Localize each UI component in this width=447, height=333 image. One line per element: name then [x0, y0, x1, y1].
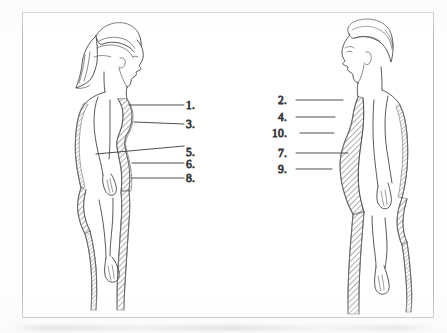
label-number: 10.: [272, 127, 287, 139]
label-callout-5: 5.: [96, 146, 195, 158]
label-number: 9.: [278, 163, 287, 175]
label-number: 4.: [278, 111, 287, 123]
label-number: 2.: [278, 94, 287, 106]
label-callout-4: 4.: [278, 111, 335, 123]
label-callout-2: 2.: [278, 94, 343, 106]
label-number: 5.: [186, 146, 195, 158]
label-number: 8.: [186, 172, 195, 184]
female-figure: [75, 23, 143, 310]
label-callout-7: 7.: [278, 147, 348, 159]
label-callout-10: 10.: [272, 127, 334, 139]
label-callout-8: 8.: [131, 172, 195, 184]
label-layer: 1.3.5.6.8.2.4.10.7.9.: [96, 94, 348, 184]
label-number: 3.: [186, 118, 195, 130]
label-callout-1: 1.: [129, 99, 195, 111]
label-callout-6: 6.: [132, 158, 195, 170]
label-number: 1.: [186, 99, 195, 111]
label-number: 6.: [186, 158, 195, 170]
label-callout-9: 9.: [278, 163, 332, 175]
male-figure: [340, 19, 412, 314]
scanned-page: 1.3.5.6.8.2.4.10.7.9.: [0, 0, 447, 333]
anatomical-illustration: 1.3.5.6.8.2.4.10.7.9.: [0, 0, 447, 333]
leader-line: [134, 122, 184, 124]
label-number: 7.: [278, 147, 287, 159]
label-callout-3: 3.: [134, 118, 195, 130]
leader-line: [96, 146, 184, 154]
